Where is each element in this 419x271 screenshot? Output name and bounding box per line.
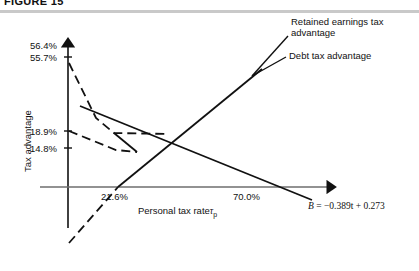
callout-label-retained-earnings-line2: advantage	[291, 27, 335, 38]
series-retained-earnings-tax-advantage	[118, 69, 262, 187]
equation-annotation: B = −0.389t + 0.273	[308, 201, 385, 211]
x-tick-label-21-6: 21.6%	[101, 191, 128, 202]
callout-leader-debt	[252, 57, 286, 76]
y-axis-title: Tax advantage	[22, 110, 33, 172]
callout-leader-retained-earnings	[252, 36, 288, 76]
callout-label-debt-tax-advantage: Debt tax advantage	[289, 50, 371, 61]
y-tick-label-55-7: 55.7%	[30, 52, 57, 63]
tau-subscript: p	[213, 211, 217, 218]
x-axis-title-text: Personal tax rate	[138, 205, 210, 216]
x-axis-title: Personal tax rateτp	[138, 205, 217, 220]
schedule-kink-connector	[114, 133, 137, 152]
x-tick-label-70-0: 70.0%	[233, 191, 260, 202]
callout-label-retained-earnings-line1: Retained earnings tax	[291, 16, 383, 27]
series-lower-dashed-schedule	[69, 131, 137, 152]
y-tick-label-18-9: 18.9%	[30, 126, 57, 137]
equation-variable: B	[308, 201, 314, 211]
series-upper-dashed-schedule	[69, 63, 168, 134]
y-tick-label-14-8: 14.8%	[30, 143, 57, 154]
y-tick-label-56-4: 56.4%	[30, 40, 57, 51]
equation-expression: = −0.389t + 0.273	[316, 201, 385, 211]
chart-canvas	[0, 0, 419, 271]
series-debt-tax-advantage	[80, 106, 312, 200]
